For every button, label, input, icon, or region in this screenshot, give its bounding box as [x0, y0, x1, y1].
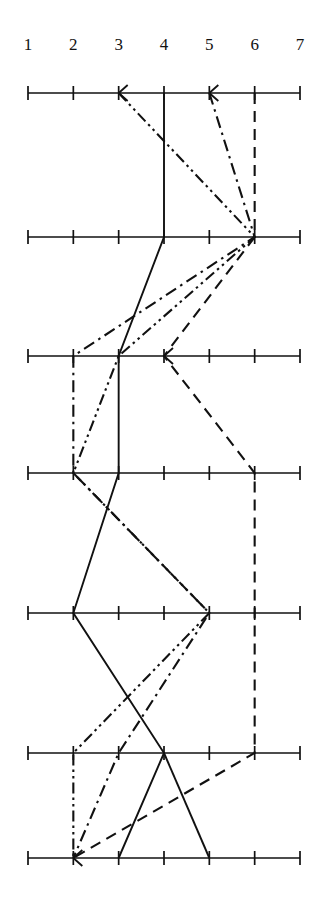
- x-tick-label-7: 7: [296, 35, 305, 54]
- arrow-barb-b: [164, 356, 173, 364]
- x-tick-label-3: 3: [114, 35, 123, 54]
- arrow-barb-b: [119, 93, 128, 101]
- x-tick-label-1: 1: [24, 35, 33, 54]
- arrow-barb-a: [119, 85, 128, 93]
- parallel-coordinates-figure: 1234567: [0, 0, 328, 913]
- x-tick-label-5: 5: [205, 35, 214, 54]
- plot-svg: 1234567: [0, 0, 328, 913]
- series-solid: [73, 93, 164, 858]
- x-tick-label-6: 6: [250, 35, 259, 54]
- x-tick-label-4: 4: [160, 35, 169, 54]
- x-tick-label-group: 1234567: [24, 35, 305, 54]
- axis-row-5: [28, 606, 300, 620]
- axis-row-7: [28, 851, 300, 865]
- arrow-marker-group: [73, 85, 218, 866]
- axis-row-4: [28, 466, 300, 480]
- x-tick-label-2: 2: [69, 35, 78, 54]
- arrow-barb-b: [73, 858, 82, 866]
- arrow-barb-a: [209, 85, 218, 93]
- arrow-barb-a: [164, 348, 173, 356]
- series-solid-branch: [164, 753, 209, 858]
